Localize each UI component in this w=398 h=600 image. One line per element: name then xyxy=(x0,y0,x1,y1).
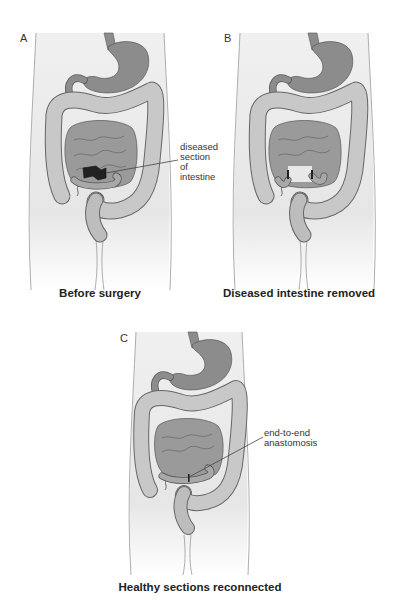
caption-diseased-intestine-removed: Diseased intestine removed xyxy=(200,287,398,299)
panel-c: C end-to-end anastomosis xyxy=(100,310,398,600)
cut-end-left xyxy=(287,170,289,179)
panel-b: B Diseased xyxy=(200,0,398,300)
panel-a-letter: A xyxy=(20,32,27,44)
anastomosis-join xyxy=(188,474,190,482)
caption-before-surgery: Before surgery xyxy=(0,287,200,299)
caption-healthy-sections-reconnected: Healthy sections reconnected xyxy=(100,581,300,593)
panel-c-letter: C xyxy=(120,332,128,344)
abdomen-illustration-before xyxy=(0,0,200,300)
panel-b-letter: B xyxy=(224,32,231,44)
abdomen-illustration-removed xyxy=(200,0,398,300)
panel-a: A xyxy=(0,0,200,300)
callout-anastomosis: end-to-end anastomosis xyxy=(264,428,317,448)
cut-end-right xyxy=(311,170,313,179)
